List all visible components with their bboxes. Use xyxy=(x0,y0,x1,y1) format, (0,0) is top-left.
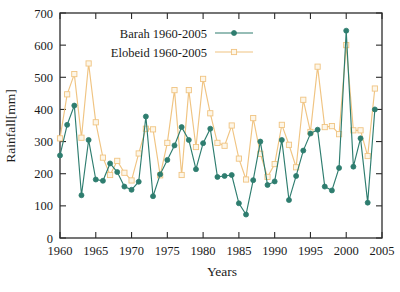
y-tick-label: 100 xyxy=(34,199,53,213)
data-point-marker xyxy=(365,200,370,205)
data-point-marker xyxy=(337,165,342,170)
data-point-marker xyxy=(72,71,77,76)
data-point-marker xyxy=(258,139,263,144)
data-point-marker xyxy=(236,156,241,161)
series-line xyxy=(60,45,375,180)
data-point-marker xyxy=(165,157,170,162)
data-point-marker xyxy=(251,116,256,121)
data-point-marker xyxy=(272,179,277,184)
data-point-marker xyxy=(65,122,70,127)
x-tick-label: 1985 xyxy=(226,244,251,258)
rainfall-line-chart: 0100200300400500600700196019651970197519… xyxy=(0,0,400,292)
data-point-marker xyxy=(150,127,155,132)
data-point-marker xyxy=(372,86,377,91)
data-series-group xyxy=(57,28,377,217)
series-barah xyxy=(58,28,378,217)
data-point-marker xyxy=(372,107,377,112)
data-point-marker xyxy=(301,97,306,102)
data-point-marker xyxy=(179,125,184,130)
legend-label: Barah 1960-2005 xyxy=(120,27,207,41)
data-point-marker xyxy=(107,172,112,177)
data-point-marker xyxy=(151,194,156,199)
data-point-marker xyxy=(201,141,206,146)
data-point-marker xyxy=(229,123,234,128)
data-point-marker xyxy=(122,170,127,175)
data-point-marker xyxy=(232,31,237,36)
series-elobeid xyxy=(57,43,377,184)
data-point-marker xyxy=(172,143,177,148)
data-point-marker xyxy=(315,64,320,69)
data-point-marker xyxy=(129,178,134,183)
x-tick-label: 1975 xyxy=(155,244,180,258)
data-point-marker xyxy=(72,103,77,108)
data-point-marker xyxy=(251,178,256,183)
y-tick-label: 500 xyxy=(34,71,53,85)
data-point-marker xyxy=(129,187,134,192)
x-axis-label: Years xyxy=(207,264,237,279)
data-point-marker xyxy=(308,131,313,136)
data-point-marker xyxy=(344,43,349,48)
data-point-marker xyxy=(136,179,141,184)
data-point-marker xyxy=(79,135,84,140)
data-point-marker xyxy=(358,128,363,133)
data-point-marker xyxy=(93,177,98,182)
data-point-marker xyxy=(115,170,120,175)
data-point-marker xyxy=(122,184,127,189)
x-tick-label: 2000 xyxy=(334,244,359,258)
y-axis-label: Rainfall[mm] xyxy=(3,89,18,162)
data-point-marker xyxy=(243,177,248,182)
data-point-marker xyxy=(79,193,84,198)
data-point-marker xyxy=(301,148,306,153)
x-tick-label: 1995 xyxy=(298,244,323,258)
y-tick-label: 300 xyxy=(34,135,53,149)
data-point-marker xyxy=(215,174,220,179)
data-point-marker xyxy=(86,61,91,66)
data-point-marker xyxy=(358,136,363,141)
data-point-marker xyxy=(322,184,327,189)
data-point-marker xyxy=(231,49,236,54)
data-point-marker xyxy=(193,167,198,172)
data-point-marker xyxy=(279,122,284,127)
y-tick-label: 200 xyxy=(34,167,53,181)
data-point-marker xyxy=(193,144,198,149)
x-tick-label: 1970 xyxy=(119,244,144,258)
data-point-marker xyxy=(179,172,184,177)
data-point-marker xyxy=(222,143,227,148)
x-tick-label: 2005 xyxy=(370,244,395,258)
data-point-marker xyxy=(265,182,270,187)
x-tick-label: 1980 xyxy=(191,244,216,258)
data-point-marker xyxy=(100,178,105,183)
data-point-marker xyxy=(58,153,63,158)
data-point-marker xyxy=(172,88,177,93)
data-point-marker xyxy=(143,114,148,119)
data-point-marker xyxy=(329,188,334,193)
data-point-marker xyxy=(272,161,277,166)
chart-canvas: 0100200300400500600700196019651970197519… xyxy=(0,0,400,292)
data-point-marker xyxy=(329,124,334,129)
data-point-marker xyxy=(208,126,213,131)
legend-label: Elobeid 1960-2005 xyxy=(111,46,207,60)
data-point-marker xyxy=(322,125,327,130)
y-tick-label: 700 xyxy=(34,7,53,21)
data-point-marker xyxy=(286,142,291,147)
data-point-marker xyxy=(86,137,91,142)
data-point-marker xyxy=(222,173,227,178)
data-point-marker xyxy=(100,155,105,160)
data-point-marker xyxy=(201,76,206,81)
data-point-marker xyxy=(186,137,191,142)
data-point-marker xyxy=(351,164,356,169)
data-point-marker xyxy=(186,88,191,93)
data-point-marker xyxy=(244,212,249,217)
data-point-marker xyxy=(57,136,62,141)
x-tick-label: 1965 xyxy=(83,244,108,258)
chart-legend: Barah 1960-2005Elobeid 1960-2005 xyxy=(111,27,253,60)
data-point-marker xyxy=(344,28,349,33)
y-tick-label: 600 xyxy=(34,39,53,53)
data-point-marker xyxy=(158,172,163,177)
data-point-marker xyxy=(93,120,98,125)
data-point-marker xyxy=(236,201,241,206)
data-point-marker xyxy=(136,151,141,156)
data-point-marker xyxy=(365,153,370,158)
data-point-marker xyxy=(215,140,220,145)
data-point-marker xyxy=(279,137,284,142)
